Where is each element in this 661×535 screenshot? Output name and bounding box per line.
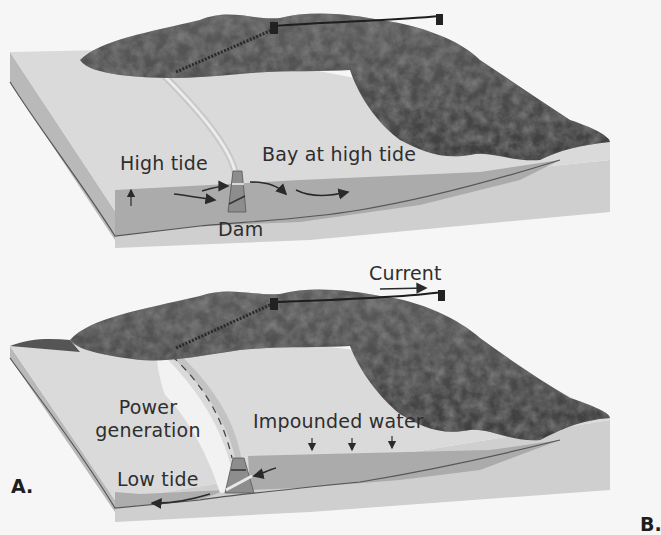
pylon-icon	[270, 298, 278, 310]
panel-letter-b: B.	[640, 513, 661, 535]
current-arrow-icon	[380, 288, 426, 289]
panel-letter-a: A.	[11, 475, 33, 497]
label-high-tide: High tide	[120, 154, 208, 173]
label-power-generation-line1: Power	[88, 398, 208, 417]
label-power-generation-line2: generation	[88, 421, 208, 440]
panel-high-tide	[10, 14, 610, 248]
pylon-icon	[438, 290, 445, 301]
pylon-icon	[270, 22, 278, 34]
label-impounded-water: Impounded water	[253, 412, 424, 431]
pylon-icon	[436, 14, 443, 25]
label-bay-at-high-tide: Bay at high tide	[262, 145, 416, 164]
label-dam: Dam	[218, 220, 263, 239]
label-low-tide: Low tide	[117, 470, 199, 489]
tidal-power-diagram	[0, 0, 661, 535]
label-current: Current	[369, 264, 442, 283]
